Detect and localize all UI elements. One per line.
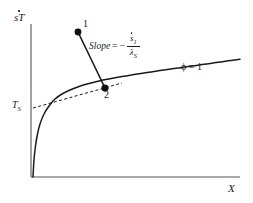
phi-value: 1 xyxy=(197,61,202,72)
thermodynamic-diagram: sT X TS 1 2 ϕ = 1 Slope = − s1 λS xyxy=(0,0,253,203)
slope-equals: = xyxy=(112,42,117,52)
saturation-curve xyxy=(33,59,240,177)
phi-curve-label: ϕ = 1 xyxy=(181,62,202,72)
ts-axis-label: TS xyxy=(12,100,21,113)
y-axis-title: sT xyxy=(14,12,24,23)
fraction-numerator: s1 xyxy=(128,34,139,46)
point-2-label: 2 xyxy=(104,90,109,100)
denominator-subscript: S xyxy=(134,52,137,59)
slope-word: Slope xyxy=(89,42,110,52)
fraction-denominator: λS xyxy=(128,47,139,59)
plot-area xyxy=(0,0,253,203)
numerator-subscript: 1 xyxy=(133,38,136,45)
phi-equals: = xyxy=(189,61,195,72)
s-dot-numerator: s xyxy=(130,34,134,43)
point-1-marker xyxy=(75,29,82,36)
phi-symbol: ϕ xyxy=(181,61,186,72)
ts-subscript: S xyxy=(18,105,22,113)
slope-formula: Slope = − s1 λS xyxy=(89,34,140,60)
x-axis-title: X xyxy=(228,183,235,194)
slope-fraction: s1 λS xyxy=(127,34,140,60)
slope-minus-sign: − xyxy=(119,42,124,52)
point-1-label: 1 xyxy=(83,19,88,29)
s-dot-glyph: sT xyxy=(14,12,24,23)
